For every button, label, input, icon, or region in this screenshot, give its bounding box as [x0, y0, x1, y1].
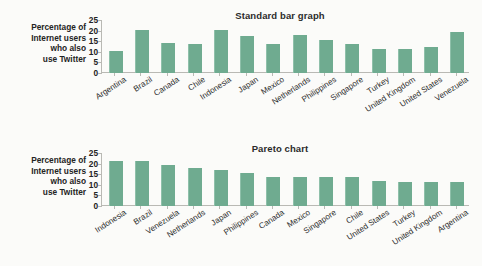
- y-tick-label: 15: [84, 169, 98, 179]
- plot-area: [101, 153, 469, 206]
- y-tick-mark: [98, 174, 102, 175]
- y-axis-tick-labels: 2520151050: [84, 16, 98, 74]
- y-axis-label-line: use Twitter: [8, 187, 86, 198]
- bar: [266, 44, 280, 73]
- bar: [135, 30, 149, 73]
- bar-series: [101, 153, 469, 206]
- y-axis-tick-labels: 2520151050: [84, 149, 98, 207]
- bar: [424, 182, 438, 206]
- y-tick-mark: [98, 164, 102, 165]
- y-tick-label: 0: [84, 201, 98, 211]
- x-category-label: Argentina: [94, 75, 128, 101]
- bar: [161, 165, 175, 206]
- bar: [188, 44, 202, 73]
- bar: [109, 51, 123, 73]
- bar: [372, 181, 386, 206]
- y-tick-mark: [98, 206, 102, 207]
- y-axis-label-line: Percentage of: [8, 22, 86, 33]
- y-tick-label: 20: [84, 159, 98, 169]
- y-tick-mark: [98, 31, 102, 32]
- y-tick-label: 25: [84, 15, 98, 25]
- y-tick-label: 0: [84, 68, 98, 78]
- y-tick-mark: [98, 41, 102, 42]
- x-axis-category-labels: ArgentinaBrazilCanadaChileIndonesiaJapan…: [101, 75, 481, 130]
- bar: [319, 177, 333, 206]
- pareto-chart-figure: Pareto chart Percentage ofInternet users…: [0, 133, 482, 266]
- x-category-label: Japan: [236, 75, 259, 95]
- x-axis-category-labels: IndonesiaBrazilVenezuelaNetherlandsJapan…: [101, 208, 481, 263]
- bar: [188, 168, 202, 206]
- y-tick-mark: [98, 73, 102, 74]
- bar-series: [101, 20, 469, 73]
- y-tick-mark: [98, 195, 102, 196]
- y-axis-label-line: use Twitter: [8, 54, 86, 65]
- y-tick-mark: [98, 20, 102, 21]
- bar: [240, 36, 254, 73]
- x-category-label: Brazil: [132, 75, 154, 94]
- y-tick-mark: [98, 185, 102, 186]
- bar: [109, 161, 123, 206]
- bar: [319, 40, 333, 73]
- y-tick-label: 10: [84, 180, 98, 190]
- y-axis-label: Percentage ofInternet userswho alsouse T…: [8, 155, 86, 197]
- y-tick-label: 25: [84, 148, 98, 158]
- plot-area: [101, 20, 469, 73]
- y-axis-label-line: Internet users: [8, 33, 86, 44]
- bar: [398, 182, 412, 206]
- y-tick-label: 15: [84, 36, 98, 46]
- bar: [398, 49, 412, 73]
- bar: [450, 182, 464, 206]
- bar: [293, 35, 307, 73]
- standard-bar-graph-figure: Standard bar graph Percentage ofInternet…: [0, 0, 482, 133]
- bar: [266, 177, 280, 206]
- bar: [345, 177, 359, 206]
- bar: [214, 30, 228, 73]
- y-tick-label: 20: [84, 26, 98, 36]
- y-tick-mark: [98, 52, 102, 53]
- bar: [372, 49, 386, 73]
- bar: [240, 173, 254, 206]
- y-tick-label: 10: [84, 47, 98, 57]
- bar: [345, 44, 359, 73]
- y-tick-mark: [98, 153, 102, 154]
- y-axis-label-line: Internet users: [8, 166, 86, 177]
- y-tick-label: 5: [84, 190, 98, 200]
- y-axis-label-line: Percentage of: [8, 155, 86, 166]
- bar: [214, 170, 228, 206]
- bar: [424, 47, 438, 73]
- y-axis-label: Percentage ofInternet userswho alsouse T…: [8, 22, 86, 64]
- bar: [161, 43, 175, 73]
- y-tick-label: 5: [84, 57, 98, 67]
- y-axis-label-line: who also: [8, 43, 86, 54]
- x-category-label: Canada: [152, 75, 181, 98]
- y-axis-label-line: who also: [8, 176, 86, 187]
- x-category-label: Indonesia: [94, 208, 128, 235]
- bar: [450, 32, 464, 73]
- bar: [135, 161, 149, 206]
- y-tick-mark: [98, 62, 102, 63]
- x-category-label: Canada: [257, 208, 286, 231]
- bar: [293, 177, 307, 206]
